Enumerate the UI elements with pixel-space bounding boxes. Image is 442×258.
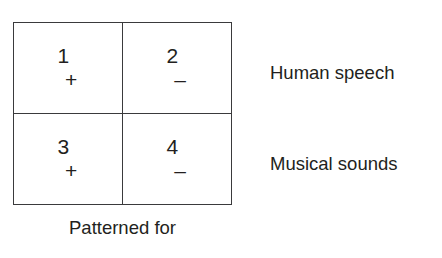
matrix-cell-3: 3 + bbox=[14, 114, 123, 204]
cell-number-1: 1 bbox=[58, 45, 70, 66]
row-label-musical-sounds: Musical sounds bbox=[270, 155, 398, 174]
figure-root: 1 + 2 – 3 + 4 – Human speech Musical sou… bbox=[0, 0, 442, 258]
cell-number-3: 3 bbox=[58, 136, 70, 157]
cell-number-4: 4 bbox=[167, 136, 179, 157]
row-label-human-speech: Human speech bbox=[270, 64, 394, 83]
cell-number-2: 2 bbox=[167, 45, 179, 66]
matrix-cell-2: 2 – bbox=[123, 23, 231, 114]
two-by-two-matrix: 1 + 2 – 3 + 4 – bbox=[13, 22, 232, 205]
cell-sign-3: + bbox=[65, 160, 77, 181]
matrix-cell-1: 1 + bbox=[14, 23, 123, 114]
cell-sign-1: + bbox=[65, 69, 77, 90]
matrix-cell-4: 4 – bbox=[123, 114, 231, 204]
matrix-caption-line-1: Patterned for bbox=[13, 214, 232, 241]
cell-sign-2: – bbox=[174, 69, 186, 90]
cell-sign-4: – bbox=[174, 160, 186, 181]
